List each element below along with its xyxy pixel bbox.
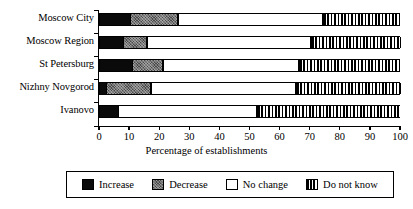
x-axis-tick — [309, 126, 310, 130]
category-axis-labels: Moscow City Moscow Region St Petersburg … — [0, 10, 94, 126]
legend-label-increase: Increase — [99, 179, 134, 191]
category-label-nizhny-novgorod: Nizhny Novgorod — [0, 81, 94, 92]
x-axis-tick-label: 60 — [265, 131, 295, 143]
legend-item-decrease[interactable]: Decrease — [152, 179, 207, 191]
bar-row — [99, 59, 400, 72]
category-label-moscow-city: Moscow City — [0, 12, 94, 23]
x-axis-tick — [249, 126, 250, 130]
bar-segment-do-not-know — [323, 14, 401, 25]
bar-segment-decrease — [130, 14, 178, 25]
legend-item-increase[interactable]: Increase — [82, 179, 134, 191]
bar-row — [99, 105, 400, 118]
bar-segment-do-not-know — [296, 83, 401, 94]
bar-segment-no-change — [118, 106, 256, 117]
bar-segment-no-change — [147, 37, 311, 48]
bar-segment-increase — [100, 14, 130, 25]
bar-segment-no-change — [178, 14, 322, 25]
legend-label-decrease: Decrease — [169, 179, 207, 191]
bar-segment-increase — [100, 106, 118, 117]
legend-label-no-change: No change — [243, 179, 288, 191]
x-axis-tick — [189, 126, 190, 130]
bar-segment-increase — [100, 37, 123, 48]
bar-segment-increase — [100, 60, 132, 71]
bar-segment-no-change — [151, 83, 295, 94]
x-axis-title: Percentage of establishments — [0, 145, 413, 157]
bar-segment-decrease — [106, 83, 151, 94]
bar-row — [99, 82, 400, 95]
x-axis-tick-label: 70 — [295, 131, 325, 143]
plot-area — [99, 10, 400, 126]
x-axis-tick-label: 30 — [174, 131, 204, 143]
legend-item-do-not-know[interactable]: Do not know — [306, 179, 378, 191]
x-axis-tick — [219, 126, 220, 130]
legend-item-no-change[interactable]: No change — [226, 179, 288, 191]
legend-label-do-not-know: Do not know — [323, 179, 378, 191]
stacked-bar-chart: Moscow City Moscow Region St Petersburg … — [0, 0, 413, 209]
x-axis-tick — [399, 126, 400, 130]
x-axis-tick-label: 40 — [204, 131, 234, 143]
x-axis-tick-label: 90 — [355, 131, 385, 143]
bar-segment-do-not-know — [299, 60, 401, 71]
legend-swatch-no-change-icon — [226, 179, 238, 190]
category-label-st-petersburg: St Petersburg — [0, 58, 94, 69]
bar-row — [99, 36, 400, 49]
x-axis-tick-label: 100 — [385, 131, 413, 143]
x-axis-tick-label: 0 — [84, 131, 114, 143]
x-axis-tick — [128, 126, 129, 130]
x-axis-tick — [279, 126, 280, 130]
x-axis-tick-label: 80 — [325, 131, 355, 143]
bar-segment-do-not-know — [257, 106, 401, 117]
category-label-ivanovo: Ivanovo — [0, 104, 94, 115]
x-axis-tick — [159, 126, 160, 130]
bar-segment-decrease — [132, 60, 164, 71]
legend-swatch-increase-icon — [82, 179, 94, 190]
legend-swatch-decrease-icon — [152, 179, 164, 190]
x-axis-tick — [369, 126, 370, 130]
category-label-moscow-region: Moscow Region — [0, 35, 94, 46]
x-axis-tick-label: 10 — [114, 131, 144, 143]
x-axis-tick — [98, 126, 99, 130]
x-axis-tick-label: 20 — [144, 131, 174, 143]
x-axis-tick-label: 50 — [235, 131, 265, 143]
legend: Increase Decrease No change Do not know — [66, 171, 394, 198]
bar-segment-do-not-know — [311, 37, 401, 48]
x-axis-tick — [339, 126, 340, 130]
legend-swatch-do-not-know-icon — [306, 179, 318, 190]
bar-row — [99, 13, 400, 26]
bar-segment-no-change — [163, 60, 298, 71]
bar-segment-decrease — [123, 37, 147, 48]
